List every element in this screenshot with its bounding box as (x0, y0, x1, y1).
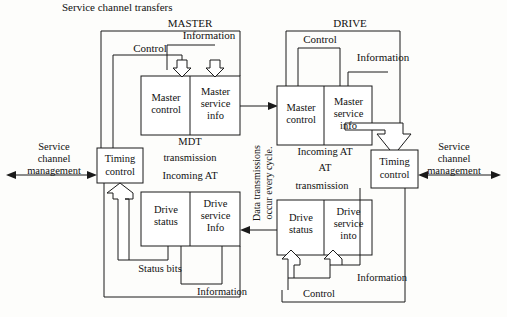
master-upper-right-line3: info (192, 110, 239, 121)
at-transmission-arrowhead (240, 226, 250, 234)
master-service-mgmt-line2: channel (18, 153, 90, 164)
drive-control-label: Control (292, 34, 348, 46)
master-lower-left-line2: status (143, 216, 189, 227)
master-lower-right-line2: service (192, 210, 239, 221)
master-information-arrowhead (206, 60, 224, 77)
drive-upper-right-line3: info (326, 120, 371, 131)
drive-lower-left-line2: status (279, 224, 323, 235)
master-upper-left-line2: control (143, 104, 189, 115)
drive-upper-right-line1: Master (326, 96, 371, 107)
drive-mid-label-line2: AT (278, 162, 372, 173)
drive-mid-label-line1: Incoming AT (278, 146, 372, 157)
drive-section-label: DRIVE (310, 18, 390, 30)
drive-mid-label-line3: transmission (272, 180, 372, 191)
mdt-label-line3: Incoming AT (140, 170, 240, 181)
master-timing-line2: control (97, 166, 143, 177)
mdt-label-line2: transmission (140, 152, 240, 163)
master-lower-right-line3: Info (192, 222, 239, 233)
master-upper-left-line1: Master (143, 92, 189, 103)
service-channel-transfers-title: Service channel transfers (62, 2, 173, 14)
status-bits-label: Status bits (120, 263, 200, 274)
drive-information-label: Information (340, 52, 426, 64)
drive-bottom-control-label: Control (288, 288, 350, 299)
drive-lower-right-line1: Drive (326, 206, 371, 217)
drive-lower-right-line3: into (326, 230, 371, 241)
drive-service-mgmt-line1: Service (418, 141, 490, 152)
master-bottom-information-label: Information (180, 286, 264, 297)
drive-bottom-information-label: Information (340, 272, 424, 283)
status-bits-feedback-arrow (107, 183, 133, 260)
master-timing-line1: Timing (97, 153, 143, 164)
center-note-line1: Data transmissions (252, 128, 263, 238)
drive-service-mgmt-line2: channel (418, 153, 490, 164)
drive-upper-right-line2: service (326, 108, 371, 119)
master-control-label: Control (120, 43, 180, 55)
master-lower-left-line1: Drive (143, 204, 189, 215)
master-service-mgmt-line1: Service (18, 141, 90, 152)
mdt-label-line1: MDT (150, 136, 230, 147)
master-upper-right-line1: Master (192, 86, 239, 97)
drive-upper-left-line2: control (279, 114, 323, 125)
master-upper-right-line2: service (192, 98, 239, 109)
drive-lower-right-line2: service (326, 218, 371, 229)
master-service-mgmt-line3: management (8, 165, 100, 176)
drive-lower-left-line1: Drive (279, 212, 323, 223)
diagram-canvas: Service channel transfers MASTER Control… (0, 0, 507, 317)
master-control-arrowhead (173, 60, 191, 77)
drive-upper-left-line1: Master (279, 102, 323, 113)
drive-service-mgmt-line3: management (408, 165, 500, 176)
master-information-label: Information (166, 30, 252, 42)
master-lower-right-line1: Drive (192, 198, 239, 209)
